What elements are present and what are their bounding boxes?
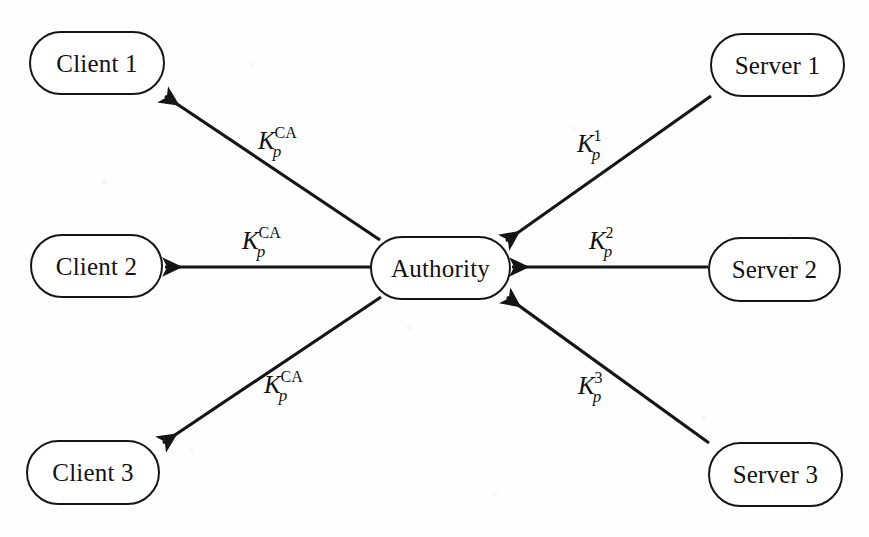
node-label-client3: Client 3: [52, 460, 133, 485]
key-symbol: KCAp: [264, 372, 281, 397]
key-subscript: p: [593, 388, 602, 405]
edge-label-label-client2: KCAp: [242, 228, 259, 253]
node-label-server3: Server 3: [733, 462, 819, 487]
edge-authority-to-client1: [165, 96, 380, 240]
node-label-client1: Client 1: [56, 51, 137, 76]
key-superscript: 2: [606, 225, 614, 241]
key-superscript: CA: [281, 369, 303, 385]
key-subscript: p: [592, 146, 601, 163]
edge-label-label-server3: K3p: [578, 373, 595, 398]
node-client1[interactable]: Client 1: [29, 31, 165, 95]
node-client2[interactable]: Client 2: [30, 234, 163, 298]
key-symbol: K2p: [589, 228, 606, 253]
key-symbol: KCAp: [242, 228, 259, 253]
key-symbol: K1p: [577, 131, 594, 156]
key-subscript: p: [279, 387, 288, 404]
edge-server1-to-authority: [506, 96, 711, 241]
node-label-authority: Authority: [391, 256, 490, 281]
key-subscript: p: [604, 243, 613, 260]
key-symbol: KCAp: [258, 128, 275, 153]
edge-authority-to-client3: [163, 297, 381, 443]
key-subscript: p: [273, 143, 282, 160]
key-superscript: CA: [259, 225, 281, 241]
node-server2[interactable]: Server 2: [708, 237, 841, 302]
edge-label-label-client1: KCAp: [258, 128, 275, 153]
key-superscript: CA: [275, 125, 297, 141]
node-client3[interactable]: Client 3: [26, 440, 160, 505]
key-symbol: K3p: [578, 373, 595, 398]
authority-key-distribution-diagram: Client 1Client 2Client 3AuthorityServer …: [0, 0, 869, 537]
key-superscript: 1: [594, 128, 602, 144]
node-label-client2: Client 2: [56, 254, 137, 279]
node-label-server2: Server 2: [732, 257, 818, 282]
node-authority[interactable]: Authority: [370, 236, 511, 300]
node-label-server1: Server 1: [735, 53, 821, 78]
edge-label-label-server2: K2p: [589, 228, 606, 253]
key-superscript: 3: [595, 370, 603, 386]
edge-server3-to-authority: [507, 297, 709, 443]
edge-label-label-client3: KCAp: [264, 372, 281, 397]
edge-label-label-server1: K1p: [577, 131, 594, 156]
key-subscript: p: [257, 243, 266, 260]
node-server1[interactable]: Server 1: [710, 33, 845, 97]
node-server3[interactable]: Server 3: [708, 442, 843, 507]
